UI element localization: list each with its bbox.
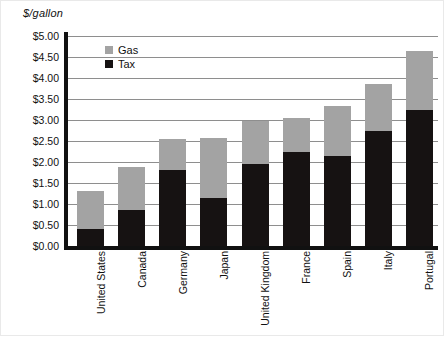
x-axis-tick-label: Germany [178, 251, 189, 294]
x-axis-tick-label: Japan [219, 251, 230, 280]
y-axis-tick-label: $0.50 [3, 220, 59, 231]
y-axis-tick-label: $4.00 [3, 73, 59, 84]
y-axis-tick-label: $1.00 [3, 199, 59, 210]
legend-label: Gas [118, 43, 138, 57]
y-axis-tick-label: $0.00 [3, 241, 59, 252]
legend-item: Tax [105, 57, 138, 71]
legend-item: Gas [105, 43, 138, 57]
x-axis-tick-label: France [301, 251, 312, 284]
x-axis-tick-label: United Kingdom [260, 251, 271, 326]
legend-swatch-tax-icon [105, 60, 113, 68]
legend-swatch-gas-icon [105, 46, 113, 54]
y-axis-tick-label: $1.50 [3, 178, 59, 189]
x-axis-tick-label: Spain [342, 251, 353, 278]
x-axis-tick-label: Canada [137, 251, 148, 288]
y-axis-tick-label: $3.00 [3, 115, 59, 126]
chart-frame: $/gallon $5.00$4.50$4.00$3.50$3.00$2.50$… [0, 0, 444, 336]
y-axis-tick-label: $4.50 [3, 52, 59, 63]
y-axis-tick-label: $2.00 [3, 157, 59, 168]
x-axis-tick-label: Italy [383, 251, 394, 270]
chart-legend: GasTax [105, 43, 138, 71]
legend-label: Tax [118, 57, 135, 71]
y-axis-tick-label: $3.50 [3, 94, 59, 105]
y-axis-tick-labels: $5.00$4.50$4.00$3.50$3.00$2.50$2.00$1.50… [1, 1, 59, 337]
x-axis-tick-label: United States [96, 251, 107, 314]
y-axis-tick-label: $5.00 [3, 31, 59, 42]
x-axis-tick-label: Portugal [424, 251, 435, 290]
y-axis-tick-label: $2.50 [3, 136, 59, 147]
